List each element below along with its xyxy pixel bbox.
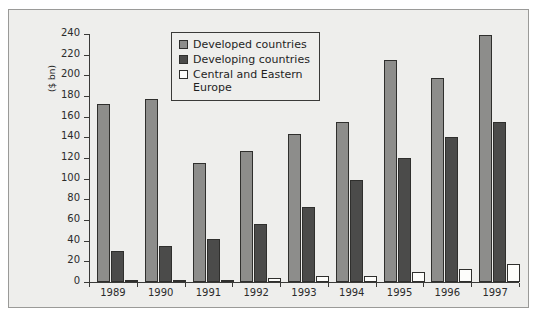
bar [159,246,172,282]
y-tick-label: 220 [61,48,80,59]
bar [412,272,425,282]
x-axis-label: 1997 [471,287,519,298]
y-tick-label: 60 [67,213,80,224]
legend-label: Developing countries [193,53,310,66]
chart-figure: ($ bn) 020406080100120140160180200220240… [0,0,537,316]
y-tick-label: 100 [61,172,80,183]
bar [288,134,301,282]
y-tick-label: 160 [61,110,80,121]
legend-label: Central and Eastern Europe [193,68,303,94]
legend-item: Central and Eastern Europe [179,68,310,94]
bar [302,207,315,282]
bar [111,251,124,282]
bar [221,280,234,282]
bar [268,278,281,282]
legend-swatch-cee [179,70,188,79]
legend-swatch-developing [179,55,188,64]
bar [445,137,458,282]
bar-group [384,34,425,282]
y-tick-label: 140 [61,130,80,141]
y-tick-label: 0 [74,275,80,286]
bar-group [97,34,138,282]
bar [125,280,138,282]
x-axis-label: 1993 [280,287,328,298]
bar [507,264,520,282]
x-axis-label: 1992 [232,287,280,298]
bar [493,122,506,282]
bar [193,163,206,282]
y-tick-label: 240 [61,27,80,38]
x-axis-label: 1994 [328,287,376,298]
legend-item: Developed countries [179,38,310,51]
x-tick-mark [519,283,520,287]
y-axis-label: ($ bn) [45,32,59,92]
y-tick-label: 180 [61,89,80,100]
bar [316,276,329,282]
x-axis-label: 1991 [185,287,233,298]
y-tick-label: 40 [67,234,80,245]
bar [173,280,186,282]
bar [398,158,411,282]
bar [207,239,220,282]
bar [254,224,267,282]
bar-group [479,34,520,282]
x-axis-label: 1989 [89,287,137,298]
x-axis-label: 1996 [423,287,471,298]
y-tick-label: 200 [61,68,80,79]
bar-group [431,34,472,282]
bar [459,269,472,282]
bar [97,104,110,282]
bar [479,35,492,282]
bar [364,276,377,282]
bar [336,122,349,282]
bar [350,180,363,282]
bar [240,151,253,282]
bar-group [336,34,377,282]
x-axis-label: 1995 [376,287,424,298]
bar [145,99,158,282]
chart-legend: Developed countriesDeveloping countriesC… [171,32,320,101]
x-axis-label: 1990 [137,287,185,298]
bar [384,60,397,282]
y-tick-label: 20 [67,254,80,265]
y-tick-label: 80 [67,192,80,203]
bar [431,78,444,282]
y-tick-label: 120 [61,151,80,162]
legend-swatch-developed [179,40,188,49]
legend-label: Developed countries [193,38,307,51]
legend-item: Developing countries [179,53,310,66]
chart-plate: ($ bn) 020406080100120140160180200220240… [8,9,529,308]
